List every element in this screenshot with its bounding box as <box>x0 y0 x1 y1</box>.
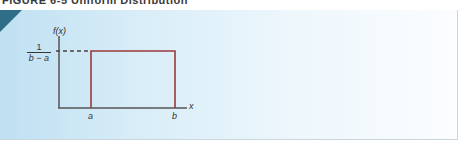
height-fraction-label: 1 b − a <box>26 42 52 63</box>
x-axis-label: x <box>189 101 194 111</box>
fraction-denominator: b − a <box>26 53 52 63</box>
tick-label-a: a <box>88 111 93 121</box>
y-axis-label: f(x) <box>53 26 66 36</box>
uniform-distribution-plot <box>0 0 467 145</box>
tick-label-b: b <box>172 111 177 121</box>
fraction-numerator: 1 <box>26 42 52 52</box>
density-rectangle <box>91 51 175 108</box>
